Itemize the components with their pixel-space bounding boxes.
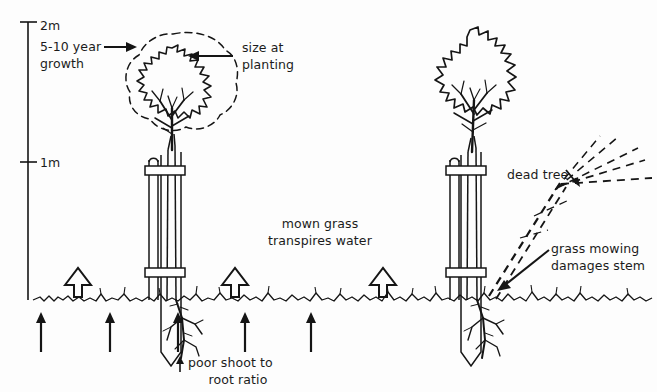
diagram-artwork [0,0,657,392]
growth-leader-arrow [104,42,137,52]
size-at-planting-leader-arrow [188,51,233,61]
right-tree-group [435,27,516,366]
grass-ground-line [33,285,652,301]
left-tree-tie-bands [145,166,185,277]
transpiration-arrows [65,268,396,297]
mown-grass-label-line2: transpires water [255,233,385,249]
diagram-canvas: 2m 1m 5-10 year growth size at planting … [0,0,657,392]
poor-shoot-root-label-line2: root ratio [188,372,288,388]
right-tree-tie-bands [446,166,486,277]
scale-tick-label-2m: 2m [40,18,60,34]
growth-label-line2: growth [40,56,84,72]
size-at-planting-label-line2: planting [242,57,294,73]
right-solid-canopy [435,27,516,115]
dead-tree-dashed [489,136,652,299]
mown-grass-label-line1: mown grass [255,216,385,232]
scale-tick-label-1m: 1m [40,155,60,171]
growth-label-line1: 5-10 year [40,39,101,55]
dead-tree-label: dead tree [507,167,568,183]
left-tree-roots [163,300,203,358]
grass-mowing-label-line1: grass mowing [551,241,639,257]
dashed-future-canopy [126,32,238,130]
poor-shoot-root-label-line1: poor shoot to [188,355,273,371]
right-stake-point [461,300,481,366]
soil-water-uptake-arrows [36,312,316,352]
left-tree-group [126,32,238,366]
size-at-planting-label-line1: size at [242,40,283,56]
left-tree-branches [152,88,193,150]
scale-bar [20,22,37,300]
right-tree-branches [452,80,496,152]
right-tree-roots [464,300,504,358]
grass-mowing-label-line2: damages stem [551,258,645,274]
